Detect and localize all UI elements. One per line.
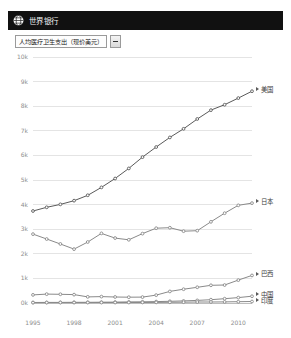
y-axis-tick-label: 6k bbox=[10, 152, 28, 158]
x-axis-tick-label: 2010 bbox=[221, 320, 255, 326]
x-axis-tick-label: 2001 bbox=[98, 320, 132, 326]
legend-item[interactable]: 美国 bbox=[256, 87, 273, 94]
y-axis-tick-label: 8k bbox=[10, 103, 28, 109]
legend-marker-icon bbox=[256, 292, 259, 296]
x-axis-tick-label: 1998 bbox=[57, 320, 91, 326]
y-axis-tick-label: 3k bbox=[10, 226, 28, 232]
legend-item[interactable]: 巴西 bbox=[256, 271, 273, 278]
chart-page: 世界银行 人均医疗卫生支出（现价美元） 0k1k2k3k4k5k6k7k8k9k… bbox=[0, 0, 291, 338]
legend-marker-icon bbox=[256, 199, 259, 203]
legend-item[interactable]: 日本 bbox=[256, 199, 273, 206]
y-axis-tick-label: 7k bbox=[10, 128, 28, 134]
legend-label: 巴西 bbox=[261, 270, 273, 278]
x-axis-tick-label: 1995 bbox=[16, 320, 50, 326]
y-axis-tick-label: 5k bbox=[10, 177, 28, 183]
legend-marker-icon bbox=[256, 272, 259, 276]
legend-item[interactable]: 印度 bbox=[256, 298, 273, 305]
y-axis-tick-label: 1k bbox=[10, 275, 28, 281]
legend-label: 印度 bbox=[261, 297, 273, 305]
legend-label: 美国 bbox=[261, 86, 273, 94]
line-chart bbox=[0, 0, 291, 338]
legend-label: 日本 bbox=[261, 198, 273, 206]
legend-marker-icon bbox=[256, 298, 259, 302]
y-axis-tick-label: 9k bbox=[10, 79, 28, 85]
x-axis-tick-label: 2007 bbox=[180, 320, 214, 326]
y-axis-tick-label: 2k bbox=[10, 251, 28, 257]
y-axis-tick-label: 0k bbox=[10, 300, 28, 306]
chart-svg bbox=[0, 0, 291, 338]
y-axis-tick-label: 4k bbox=[10, 202, 28, 208]
legend-marker-icon bbox=[256, 87, 259, 91]
x-axis-tick-label: 2004 bbox=[139, 320, 173, 326]
y-axis-tick-label: 10k bbox=[10, 54, 28, 60]
